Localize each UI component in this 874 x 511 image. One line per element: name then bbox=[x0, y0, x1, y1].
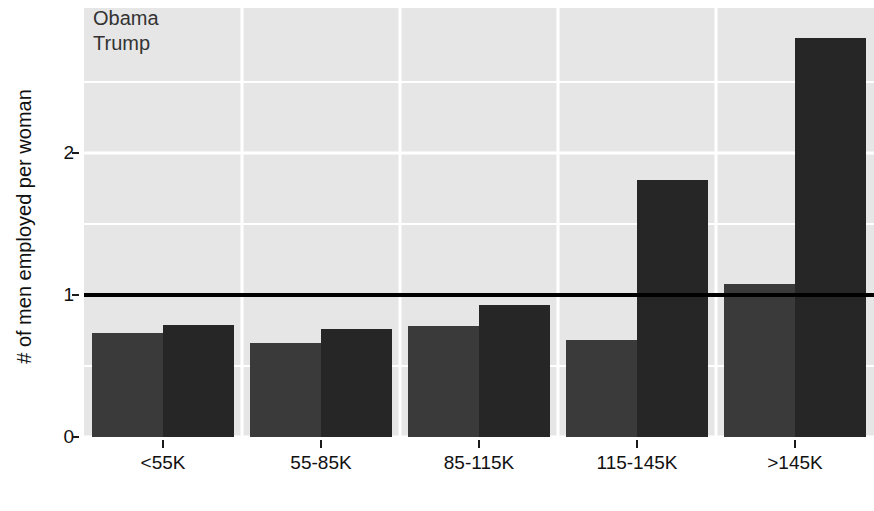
gridline-vertical-1 bbox=[241, 8, 244, 438]
chart-title bbox=[0, 0, 874, 3]
gridline-horizontal-2 bbox=[84, 152, 874, 155]
legend: ObamaTrump bbox=[93, 6, 159, 56]
plot-panel bbox=[84, 8, 874, 438]
gridline-horizontal-minor-1.5 bbox=[84, 223, 874, 225]
y-tick-mark-1 bbox=[72, 294, 79, 296]
gridline-vertical-3 bbox=[557, 8, 560, 438]
y-tick-mark-2 bbox=[72, 152, 79, 154]
bar-obama-<55K[interactable] bbox=[92, 333, 163, 437]
legend-entry-obama[interactable]: Obama bbox=[93, 6, 159, 31]
y-axis-title: # of men employed per woman bbox=[13, 7, 36, 447]
y-tick-label-0: 0 bbox=[48, 426, 74, 448]
x-tick-label-55-85K: 55-85K bbox=[241, 452, 401, 474]
parity-reference-line bbox=[84, 293, 874, 297]
gridline-vertical-4 bbox=[715, 8, 718, 438]
x-tick-label-115-145K: 115-145K bbox=[557, 452, 717, 474]
bar-trump-115-145K[interactable] bbox=[637, 180, 708, 437]
legend-entry-trump[interactable]: Trump bbox=[93, 31, 159, 56]
y-axis-ticks: 012 bbox=[42, 0, 74, 511]
bar-chart: # of men employed per woman 012 ObamaTru… bbox=[0, 0, 874, 511]
x-tick-mark-115-145K bbox=[636, 440, 638, 448]
x-tick-label-85-115K: 85-115K bbox=[399, 452, 559, 474]
x-axis: <55K55-85K85-115K115-145K>145K bbox=[84, 438, 874, 498]
x-tick-mark->145K bbox=[794, 440, 796, 448]
gridline-horizontal-minor-2.5 bbox=[84, 81, 874, 83]
bar-trump-85-115K[interactable] bbox=[479, 305, 550, 437]
y-tick-label-1: 1 bbox=[48, 284, 74, 306]
y-tick-mark-0 bbox=[72, 436, 79, 438]
bar-obama-85-115K[interactable] bbox=[408, 326, 479, 437]
bar-trump->145K[interactable] bbox=[795, 38, 866, 437]
x-tick-label->145K: >145K bbox=[715, 452, 874, 474]
y-tick-label-2: 2 bbox=[48, 142, 74, 164]
bar-trump-<55K[interactable] bbox=[163, 325, 234, 437]
x-tick-label-<55K: <55K bbox=[83, 452, 243, 474]
x-tick-mark-85-115K bbox=[478, 440, 480, 448]
bar-trump-55-85K[interactable] bbox=[321, 329, 392, 437]
x-tick-mark-<55K bbox=[162, 440, 164, 448]
bar-obama-115-145K[interactable] bbox=[566, 340, 637, 437]
bar-obama-55-85K[interactable] bbox=[250, 343, 321, 437]
x-tick-mark-55-85K bbox=[320, 440, 322, 448]
bar-obama->145K[interactable] bbox=[724, 284, 795, 437]
gridline-vertical-2 bbox=[399, 8, 402, 438]
